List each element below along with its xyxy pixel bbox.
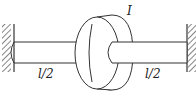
left-length-label: l/2: [38, 68, 54, 80]
left-wall: [2, 24, 14, 72]
shaft-disk-diagram: I l/2 l/2: [0, 0, 196, 97]
right-length-label: l/2: [145, 68, 161, 80]
left-shaft: [11, 42, 80, 63]
right-wall: [187, 24, 196, 72]
disk-inertia-label: I: [127, 5, 132, 17]
diagram-drawing: [0, 0, 196, 97]
right-shaft: [108, 42, 187, 63]
